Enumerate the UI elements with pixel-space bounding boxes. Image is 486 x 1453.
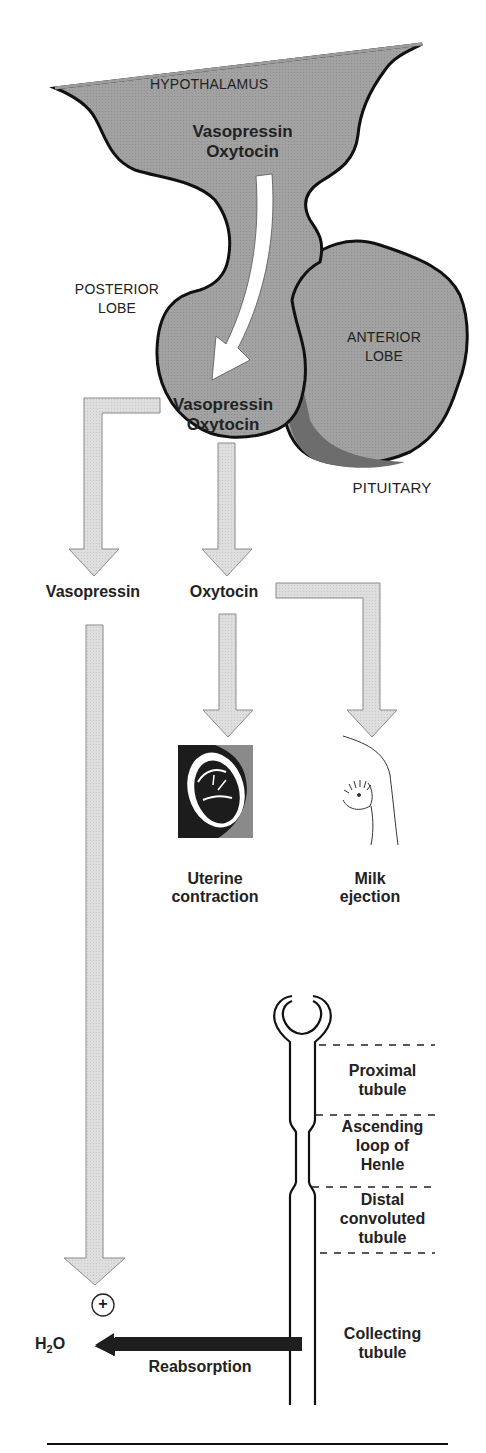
segment-distal-1: Distal bbox=[330, 1191, 435, 1209]
hypothalamus-label: HYPOTHALAMUS bbox=[150, 77, 268, 93]
posterior-lobe-label-2: LOBE bbox=[62, 301, 172, 317]
segment-henle-3: Henle bbox=[330, 1156, 435, 1174]
milk-ejection-label-1: Milk bbox=[320, 870, 420, 888]
segment-distal-3: tubule bbox=[330, 1229, 435, 1247]
segment-collecting-1: Collecting bbox=[330, 1325, 435, 1343]
vasopressin-to-kidney-arrow bbox=[64, 625, 125, 1285]
anterior-lobe-label-2: LOBE bbox=[334, 349, 434, 365]
anterior-lobe-label-1: ANTERIOR bbox=[334, 330, 434, 346]
pituitary-label: PITUITARY bbox=[332, 480, 452, 497]
uterine-contraction-label-1: Uterine bbox=[160, 870, 270, 888]
water-label: H2O bbox=[35, 1335, 65, 1355]
uterus-fetus-icon bbox=[178, 745, 253, 838]
segment-distal-2: convoluted bbox=[330, 1210, 435, 1228]
hypothalamus-hormone-vasopressin: Vasopressin bbox=[180, 122, 305, 141]
segment-collecting-2: tubule bbox=[330, 1344, 435, 1362]
posterior-hormone-oxytocin: Oxytocin bbox=[158, 415, 288, 434]
hypothalamus-hormone-oxytocin: Oxytocin bbox=[180, 142, 305, 161]
segment-proximal-2: tubule bbox=[330, 1081, 435, 1099]
oxytocin-release-arrow bbox=[202, 443, 252, 576]
plus-symbol: + bbox=[96, 1295, 110, 1313]
reabsorption-label: Reabsorption bbox=[130, 1358, 270, 1376]
segment-proximal-1: Proximal bbox=[330, 1062, 435, 1080]
posterior-hormone-vasopressin: Vasopressin bbox=[158, 395, 288, 414]
milk-ejection-label-2: ejection bbox=[320, 888, 420, 906]
uterine-contraction-label-2: contraction bbox=[160, 888, 270, 906]
posterior-lobe-label-1: POSTERIOR bbox=[62, 282, 172, 298]
oxytocin-to-breast-arrow bbox=[276, 583, 397, 737]
breast-icon bbox=[343, 736, 398, 845]
oxytocin-to-uterus-arrow bbox=[203, 614, 253, 737]
water-h: H bbox=[35, 1335, 47, 1352]
oxytocin-label: Oxytocin bbox=[174, 583, 274, 601]
water-o: O bbox=[53, 1335, 65, 1352]
vasopressin-release-arrow bbox=[69, 398, 160, 576]
segment-henle-2: loop of bbox=[330, 1137, 435, 1155]
segment-henle-1: Ascending bbox=[330, 1118, 435, 1136]
vasopressin-label: Vasopressin bbox=[28, 583, 158, 601]
